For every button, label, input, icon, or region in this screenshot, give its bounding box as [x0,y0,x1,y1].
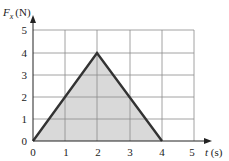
svg-text:5: 5 [22,24,28,36]
svg-text:1: 1 [63,146,69,158]
x-tick-labels: 0 1 2 3 4 5 [30,146,195,158]
y-tick-labels: 0 1 2 3 4 5 [22,24,28,147]
svg-text:3: 3 [22,69,28,81]
svg-text:4: 4 [22,47,28,59]
x-axis-arrow-icon [204,138,212,144]
force-time-chart: 0 1 2 3 4 5 0 1 2 3 4 5 t (s) Fx(N) [0,0,229,161]
svg-text:0: 0 [22,135,28,147]
svg-text:3: 3 [127,146,133,158]
svg-text:4: 4 [159,146,165,158]
x-axis-label: t (s) [205,146,223,159]
y-axis-label: Fx(N) [2,6,31,21]
y-axis-arrow-icon [30,15,36,23]
svg-text:2: 2 [22,91,28,103]
svg-text:1: 1 [22,113,28,125]
svg-text:5: 5 [189,146,195,158]
svg-text:2: 2 [95,146,101,158]
svg-text:0: 0 [30,146,36,158]
